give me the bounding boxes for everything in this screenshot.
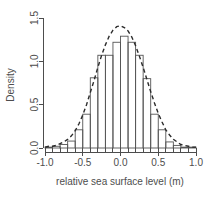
histogram-bar (83, 114, 91, 148)
histogram-bar (68, 141, 76, 148)
y-tick-label: 0.5 (29, 97, 40, 111)
histogram-bar (136, 55, 144, 148)
histogram-bar (181, 147, 189, 148)
histogram-bar (98, 55, 106, 148)
x-tick-label: 0.5 (151, 157, 165, 168)
histogram-bar (128, 42, 136, 148)
x-tick-label: 0.0 (114, 157, 128, 168)
y-tick-labels: 0.00.51.01.5 (29, 11, 40, 155)
histogram-bar (75, 130, 83, 148)
x-axis-title: relative sea surface level (m) (56, 176, 184, 187)
histogram-bar (60, 145, 68, 148)
plot-canvas: -1.0-0.50.00.51.0 0.00.51.01.5 relative … (0, 0, 210, 197)
x-tick-label: -0.5 (74, 157, 92, 168)
x-tick-label: 1.0 (189, 157, 203, 168)
x-tick-label: -1.0 (36, 157, 54, 168)
y-tick-label: 0.0 (29, 141, 40, 155)
histogram-bar (166, 142, 174, 148)
histogram-bars (45, 36, 196, 148)
y-tick-marks (39, 18, 43, 148)
x-tick-labels: -1.0-0.50.00.51.0 (36, 157, 203, 168)
histogram-bar (113, 42, 121, 148)
histogram-bar (105, 55, 113, 148)
y-axis-title: Density (5, 68, 16, 101)
y-tick-label: 1.0 (29, 54, 40, 68)
histogram-bar (151, 114, 159, 148)
histogram-bar (90, 78, 98, 148)
histogram-bar (121, 36, 129, 148)
histogram-bar (158, 130, 166, 148)
x-tick-marks (45, 148, 196, 156)
y-tick-label: 1.5 (29, 11, 40, 25)
density-histogram-figure: -1.0-0.50.00.51.0 0.00.51.01.5 relative … (0, 0, 210, 197)
histogram-bar (173, 145, 181, 148)
